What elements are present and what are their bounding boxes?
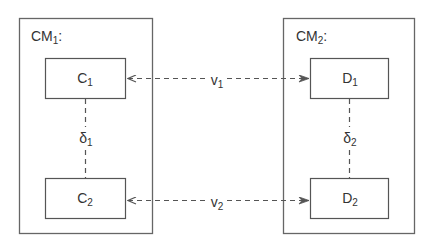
edge-label-v1: v1 [211,73,224,90]
node-label-c1: C1 [77,71,93,88]
edge-label-v2: v2 [211,195,224,212]
diagram-canvas [0,0,439,250]
edge-label-delta2: δ2 [343,131,356,148]
node-label-d1: D1 [342,71,358,88]
node-label-c2: C2 [77,191,93,208]
edge-label-delta1: δ1 [79,131,92,148]
node-label-d2: D2 [342,191,358,208]
model-label-cm1: CM1: [31,29,62,46]
model-label-cm2: CM2: [296,29,327,46]
